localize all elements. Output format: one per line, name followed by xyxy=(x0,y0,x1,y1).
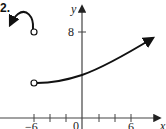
y-axis-label: y xyxy=(71,3,76,15)
y-tick-label-8: 8 xyxy=(68,26,74,38)
open-circle-upper xyxy=(31,29,37,35)
x-axis xyxy=(0,114,160,122)
function-graph xyxy=(0,0,166,129)
x-tick-label-neg6: −6 xyxy=(25,121,38,129)
curve-right-piece xyxy=(31,38,153,86)
x-tick-label-0: 0 xyxy=(73,120,79,129)
open-circle-lower xyxy=(31,80,37,86)
curve-left-piece xyxy=(10,12,37,35)
x-tick-label-6: 6 xyxy=(128,121,134,129)
y-axis xyxy=(78,6,86,129)
x-axis-label: x xyxy=(160,120,165,129)
